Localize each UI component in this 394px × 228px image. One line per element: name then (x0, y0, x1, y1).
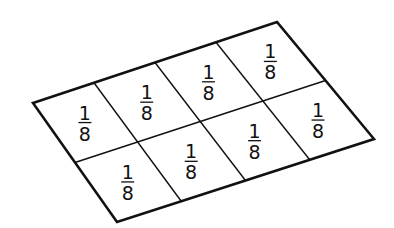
fraction-numerator: 1 (312, 99, 324, 121)
fraction-label: 18 (264, 40, 277, 83)
fraction-numerator: 1 (141, 81, 153, 103)
fraction-label: 18 (202, 61, 215, 104)
fraction-numerator: 1 (185, 140, 197, 162)
fraction-numerator: 1 (249, 120, 261, 142)
fraction-denominator: 8 (79, 123, 91, 145)
fraction-denominator: 8 (249, 141, 261, 163)
fraction-numerator: 1 (202, 61, 214, 83)
eighths-grid: 1818181818181818 (0, 0, 394, 228)
fraction-denominator: 8 (264, 61, 276, 83)
fraction-denominator: 8 (141, 102, 153, 124)
fraction-numerator: 1 (79, 102, 91, 124)
fraction-numerator: 1 (264, 40, 276, 62)
fraction-denominator: 8 (312, 120, 324, 142)
fraction-denominator: 8 (202, 82, 214, 104)
fraction-label: 18 (121, 161, 134, 204)
fraction-diagram: 1818181818181818 (0, 0, 394, 228)
row-divider (75, 81, 326, 163)
grid-lines (75, 42, 326, 201)
fraction-label: 18 (78, 102, 91, 145)
fraction-denominator: 8 (122, 182, 134, 204)
fraction-label: 18 (185, 140, 198, 183)
fraction-label: 18 (140, 81, 153, 124)
fraction-label: 18 (248, 120, 261, 163)
fraction-numerator: 1 (122, 161, 134, 183)
fraction-denominator: 8 (185, 161, 197, 183)
fraction-label: 18 (312, 99, 325, 142)
